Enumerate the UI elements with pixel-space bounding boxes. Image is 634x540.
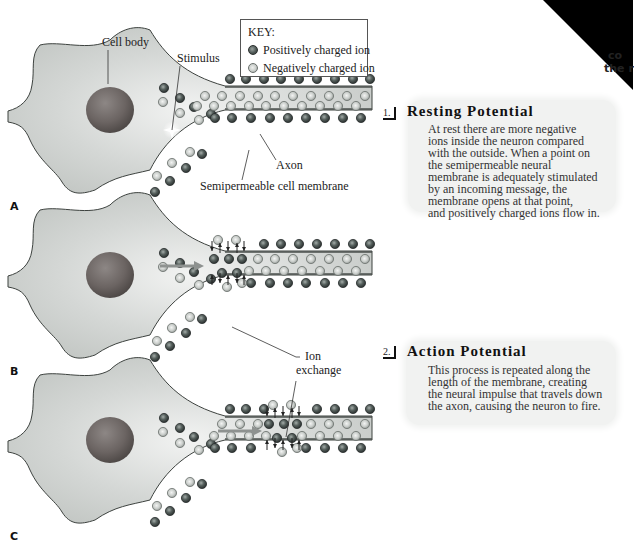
positive-ion [159, 83, 168, 92]
positive-ion [312, 404, 321, 413]
positive-ion [197, 479, 206, 488]
negative-ion [192, 101, 201, 110]
negative-ion [288, 254, 297, 263]
negative-ion [270, 91, 279, 100]
negative-ion [167, 323, 176, 332]
negative-ion [194, 280, 203, 289]
negative-ion [351, 431, 360, 440]
step-number-2: 2. [383, 346, 396, 359]
positive-ion [330, 404, 339, 413]
negative-ion [152, 171, 161, 180]
negative-ion [185, 147, 194, 156]
negative-ion [333, 101, 342, 110]
negative-ion [261, 101, 270, 110]
positive-ion [330, 239, 339, 248]
negative-ion [231, 235, 240, 244]
positive-ion [175, 423, 184, 432]
negative-ion [222, 282, 231, 291]
arrowhead-icon [226, 247, 230, 251]
positive-ion [265, 278, 274, 287]
positive-ion [320, 443, 329, 452]
negative-ion [158, 427, 167, 436]
positive-ion [276, 239, 285, 248]
negative-ion [342, 91, 351, 100]
negative-ion [194, 445, 203, 454]
cell-body-label: Cell body [102, 35, 149, 49]
negative-ion [217, 419, 226, 428]
positive-ion [181, 163, 190, 172]
negative-ion [185, 477, 194, 486]
positive-ion [150, 517, 159, 526]
positive-ion [301, 113, 310, 122]
negative-ion [261, 431, 270, 440]
negative-ion [279, 101, 288, 110]
negative-ion [324, 419, 333, 428]
negative-ion [253, 419, 262, 428]
positive-ion [197, 314, 206, 323]
positive-ion [246, 278, 255, 287]
page-corner-fold [543, 0, 633, 90]
negative-ion [235, 91, 244, 100]
legend-item-negative: Negatively charged ion [248, 59, 367, 77]
negative-ion [152, 336, 161, 345]
negative-ion [277, 447, 286, 456]
positive-ion [279, 419, 288, 428]
positive-ion [365, 239, 374, 248]
negative-ion [235, 419, 244, 428]
positive-ion [210, 443, 219, 452]
negative-ion [292, 443, 301, 452]
positive-ion [225, 404, 234, 413]
ion-exchange-label-1: Ion [305, 349, 321, 363]
negative-ion [167, 488, 176, 497]
positive-ion [338, 278, 347, 287]
resting-potential-body: At rest there are more negative ions ins… [428, 123, 600, 219]
negative-ion [226, 431, 235, 440]
negative-ion [268, 400, 277, 409]
negative-ion [324, 254, 333, 263]
negative-ion [333, 266, 342, 275]
positive-ion [312, 239, 321, 248]
positive-ion [159, 413, 168, 422]
positive-ion [283, 113, 292, 122]
stimulus-label: Stimulus [177, 51, 220, 65]
negative-ion-icon [248, 63, 258, 73]
negative-ion [306, 419, 315, 428]
arrowhead-icon [281, 440, 285, 444]
negative-ion [288, 91, 297, 100]
negative-ion [324, 91, 333, 100]
negative-ion [342, 254, 351, 263]
negative-ion [209, 101, 218, 110]
positive-ion [246, 443, 255, 452]
negative-ion [297, 266, 306, 275]
negative-ion [253, 91, 262, 100]
positive-ion [246, 113, 255, 122]
positive-ion [338, 113, 347, 122]
positive-ion [356, 443, 365, 452]
nucleus [86, 417, 134, 463]
arrowhead-icon [242, 247, 246, 251]
arrowhead-icon [242, 275, 246, 279]
negative-ion [152, 501, 161, 510]
panel-letter-c: C [10, 530, 18, 540]
membrane-leader [242, 150, 249, 180]
negative-ion [185, 312, 194, 321]
legend-label-negative: Negatively charged ion [263, 59, 375, 77]
negative-ion [175, 438, 184, 447]
negative-ion [226, 101, 235, 110]
negative-ion [297, 101, 306, 110]
axon-label: Axon [276, 158, 303, 172]
negative-ion [194, 115, 203, 124]
positive-ion [320, 278, 329, 287]
negative-ion [315, 101, 324, 110]
panel-letter-b: B [10, 365, 18, 378]
negative-ion [270, 254, 279, 263]
negative-ion [200, 91, 209, 100]
arrowhead-icon [273, 444, 277, 448]
positive-ion [283, 278, 292, 287]
negative-ion [360, 91, 369, 100]
ion-exchange-leader-b [232, 327, 296, 357]
positive-ion [264, 419, 273, 428]
positive-ion [150, 187, 159, 196]
positive-ion [348, 404, 357, 413]
panel-letter-a: A [10, 200, 19, 213]
